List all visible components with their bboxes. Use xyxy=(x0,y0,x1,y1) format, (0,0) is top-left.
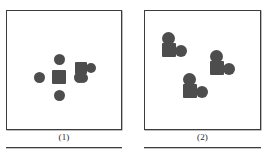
atom-square-center xyxy=(52,70,66,84)
atom-circle-left xyxy=(34,72,45,83)
atom-circle-top xyxy=(54,54,65,65)
caption-panel-2: (2) xyxy=(144,131,261,143)
atom-circle-lower-right xyxy=(223,63,235,75)
atom-square-body xyxy=(183,84,197,98)
panel-2-canvas xyxy=(145,11,260,129)
atom-circle-lower-right xyxy=(78,73,88,83)
atom-square-body xyxy=(162,43,176,57)
molecule-bent-top-left xyxy=(161,32,189,59)
caption-panel-1: (1) xyxy=(6,131,122,143)
next-panel-top-edge-left xyxy=(6,147,122,148)
atom-circle-right xyxy=(86,63,96,73)
panel-1-canvas xyxy=(7,11,121,129)
figure-container: (1) (2) xyxy=(0,0,266,153)
molecule-bent-right xyxy=(209,50,237,77)
panel-2 xyxy=(144,10,261,130)
atom-circle-lower-right xyxy=(175,45,187,57)
molecule-angular xyxy=(75,62,99,86)
panel-1 xyxy=(6,10,122,130)
atom-circle-lower-right xyxy=(196,86,208,98)
atom-square-body xyxy=(210,61,224,75)
atom-circle-bottom xyxy=(54,90,65,101)
next-panel-top-edge-right xyxy=(144,147,261,148)
molecule-bent-bottom-center xyxy=(182,73,210,100)
